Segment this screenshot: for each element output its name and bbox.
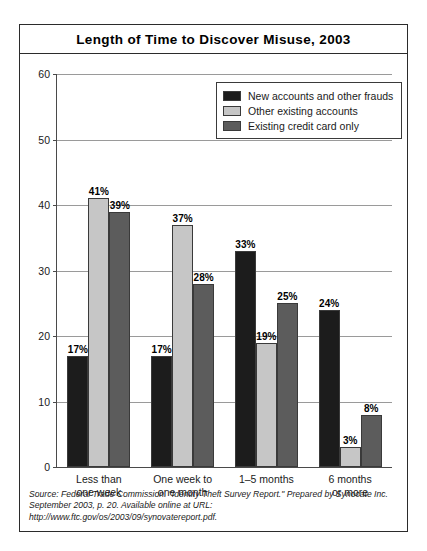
bar-group: 17%37%28% xyxy=(141,74,225,467)
bar: 19% xyxy=(256,343,277,467)
bar: 37% xyxy=(172,225,193,467)
bar-value-label: 8% xyxy=(364,403,378,414)
y-axis-tick xyxy=(53,467,57,468)
source-note: Source: Federal Trade Commission. "Ident… xyxy=(29,489,398,524)
legend-item: Existing credit card only xyxy=(223,118,393,133)
bar-value-label: 39% xyxy=(110,200,130,211)
chart-figure: Length of Time to Discover Misuse, 2003 … xyxy=(19,24,408,532)
y-axis-tick-label: 0 xyxy=(44,461,50,473)
bar-value-label: 3% xyxy=(343,435,357,446)
bar: 17% xyxy=(151,356,172,467)
bar-value-label: 28% xyxy=(194,272,214,283)
y-axis-tick-label: 30 xyxy=(38,265,50,277)
plot-wrapper: 0102030405060 17%41%39%17%37%28%33%19%25… xyxy=(20,54,407,533)
bar-value-label: 37% xyxy=(173,213,193,224)
legend-item-label: Existing credit card only xyxy=(248,120,359,132)
bar-value-label: 41% xyxy=(89,186,109,197)
bar: 39% xyxy=(109,212,130,467)
bar: 17% xyxy=(67,356,88,467)
y-axis-tick-label: 40 xyxy=(38,199,50,211)
chart-legend: New accounts and other frauds Other exis… xyxy=(216,82,402,139)
bar: 24% xyxy=(319,310,340,467)
y-axis-tick-label: 10 xyxy=(38,396,50,408)
bar-value-label: 19% xyxy=(256,331,276,342)
legend-item-label: New accounts and other frauds xyxy=(248,90,393,102)
chart-title-bar: Length of Time to Discover Misuse, 2003 xyxy=(20,25,407,54)
bar-value-label: 25% xyxy=(277,291,297,302)
bar: 3% xyxy=(340,447,361,467)
bar-value-label: 17% xyxy=(152,344,172,355)
bar-group: 17%41%39% xyxy=(57,74,141,467)
x-axis-category-label: 1–5 months xyxy=(225,473,309,486)
y-axis-tick-label: 60 xyxy=(38,68,50,80)
y-axis-tick-label: 20 xyxy=(38,330,50,342)
bar: 25% xyxy=(277,303,298,467)
bar-value-label: 17% xyxy=(68,344,88,355)
legend-item: Other existing accounts xyxy=(223,103,393,118)
source-note-line-2: September 2003, p. 20. Available online … xyxy=(29,500,398,523)
bar: 28% xyxy=(193,284,214,467)
legend-swatch-icon xyxy=(223,106,241,116)
bar: 33% xyxy=(235,251,256,467)
bar-value-label: 33% xyxy=(235,239,255,250)
legend-swatch-icon xyxy=(223,121,241,131)
bar-value-label: 24% xyxy=(319,298,339,309)
y-axis-tick-label: 50 xyxy=(38,134,50,146)
legend-item: New accounts and other frauds xyxy=(223,88,393,103)
legend-swatch-icon xyxy=(223,91,241,101)
page-title: Length of Time to Discover Misuse, 2003 xyxy=(76,32,350,47)
bar: 8% xyxy=(361,415,382,467)
legend-item-label: Other existing accounts xyxy=(248,105,358,117)
bar: 41% xyxy=(88,198,109,467)
source-note-line-1: Source: Federal Trade Commission. "Ident… xyxy=(29,489,398,501)
